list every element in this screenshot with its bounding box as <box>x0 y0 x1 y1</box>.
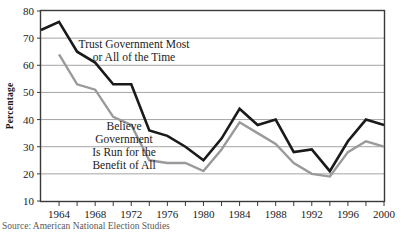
x-tick-label: 1988 <box>265 208 288 220</box>
percentage-trust-line-chart: 1020304050607080 19641968197219761980198… <box>0 0 405 232</box>
x-tick-label: 1976 <box>156 208 179 220</box>
y-tick-label: 70 <box>23 32 35 44</box>
y-tick-label: 40 <box>23 114 35 126</box>
chart-background <box>0 0 405 232</box>
x-tick-label: 2000 <box>373 208 396 220</box>
y-tick-label: 10 <box>23 195 35 207</box>
x-tick-label: 1968 <box>84 208 107 220</box>
believe-government-label-line: Government <box>95 133 153 145</box>
y-tick-label: 30 <box>23 141 35 153</box>
trust-government-label-line: or All of the Time <box>93 51 175 63</box>
trust-government-label-line: Trust Government Most <box>79 38 191 50</box>
y-tick-label: 80 <box>23 5 35 17</box>
chart-figure: 1020304050607080 19641968197219761980198… <box>0 0 405 232</box>
y-tick-label: 20 <box>23 168 35 180</box>
x-tick-label: 1972 <box>120 208 142 220</box>
y-axis-title: Percentage <box>5 83 15 130</box>
chart-caption: Source: American National Election Studi… <box>2 221 170 231</box>
x-tick-label: 1992 <box>301 208 323 220</box>
believe-government-label-line: Believe <box>106 120 141 132</box>
x-tick-label: 1996 <box>337 208 360 220</box>
believe-government-label-line: Benefit of All <box>92 159 155 171</box>
y-tick-label: 60 <box>23 59 35 71</box>
x-tick-label: 1984 <box>229 208 252 220</box>
trust-government-label: Trust Government Mostor All of the Time <box>79 38 191 63</box>
x-tick-label: 1964 <box>48 208 71 220</box>
believe-government-label-line: Is Run for the <box>92 146 156 158</box>
x-tick-label: 1980 <box>192 208 215 220</box>
y-tick-label: 50 <box>23 86 35 98</box>
